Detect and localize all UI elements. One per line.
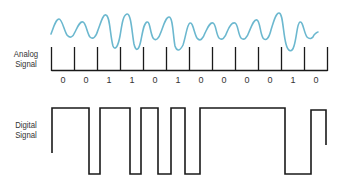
bit-value: 0 [313, 75, 318, 85]
time-axis [52, 47, 328, 71]
bit-value: 0 [244, 75, 249, 85]
bit-sequence: 0 0 1 1 0 1 0 0 0 0 1 0 [60, 75, 318, 85]
signal-diagram: 0 0 1 1 0 1 0 0 0 0 1 0 [0, 0, 343, 187]
bit-value: 1 [175, 75, 180, 85]
bit-value: 1 [290, 75, 295, 85]
bit-value: 1 [129, 75, 134, 85]
bit-value: 1 [106, 75, 111, 85]
bit-value: 0 [60, 75, 65, 85]
bit-value: 0 [198, 75, 203, 85]
bit-value: 0 [83, 75, 88, 85]
bit-value: 0 [221, 75, 226, 85]
digital-waveform [52, 108, 326, 174]
analog-waveform [51, 13, 318, 51]
bit-value: 0 [267, 75, 272, 85]
bit-value: 0 [152, 75, 157, 85]
